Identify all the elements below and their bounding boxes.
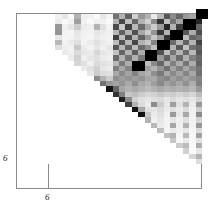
figure-canvas: 6 6 <box>0 0 209 210</box>
diagonal-block <box>170 30 183 40</box>
heatmap-cell <box>196 159 202 164</box>
diagonal-block <box>145 50 158 60</box>
diagonal-block <box>132 61 145 71</box>
diagonal-block <box>196 9 209 19</box>
diagonal-block <box>157 40 170 50</box>
y-axis-tick-label: 6 <box>3 154 8 163</box>
diagonal-block <box>183 19 196 29</box>
x-axis-tick-label: 6 <box>45 193 50 202</box>
